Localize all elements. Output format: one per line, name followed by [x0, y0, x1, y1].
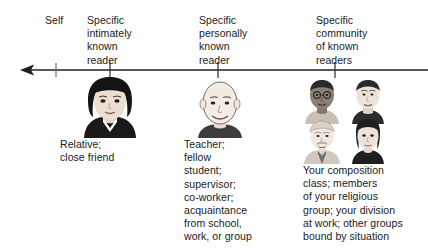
man-eye-right — [225, 101, 230, 104]
audience-continuum-diagram: Self Specific intimately known reader Sp… — [0, 0, 428, 252]
face-eye-left — [362, 93, 365, 95]
face-eye-right — [325, 135, 328, 137]
description-intimately-known-reader: Relative; close friend — [60, 138, 114, 164]
label-specific-intimately-known-reader: Specific intimately known reader — [87, 14, 132, 67]
woman-eye-right — [114, 99, 119, 102]
face-eye-right — [326, 94, 329, 96]
man-head — [203, 82, 237, 124]
face-eye-left — [362, 134, 365, 136]
description-personally-known-reader: Teacher; fellow student; supervisor; co-… — [184, 138, 252, 244]
face-eye-right — [370, 134, 373, 136]
group-face-man-with-glasses — [303, 80, 341, 124]
description-community-of-known-readers: Your composition class; members of your … — [303, 164, 403, 243]
label-self: Self — [45, 14, 63, 27]
label-specific-personally-known-reader: Specific personally known reader — [199, 14, 247, 67]
portrait-bald-man — [190, 80, 250, 138]
group-face-young-man — [350, 80, 386, 124]
face-eye-left — [316, 135, 319, 137]
face-eye-left — [316, 94, 319, 96]
woman-eye-left — [100, 99, 105, 102]
portrait-group-of-four — [300, 80, 392, 164]
man-ear-right — [234, 99, 240, 109]
portrait-woman-dark-bob — [72, 76, 148, 138]
man-ear-left — [200, 99, 206, 109]
man-eye-left — [211, 101, 216, 104]
face-eye-right — [370, 93, 373, 95]
group-face-woman — [350, 119, 386, 164]
group-face-older-man — [303, 121, 341, 164]
label-specific-community-of-known-readers: Specific community of known readers — [316, 14, 367, 67]
